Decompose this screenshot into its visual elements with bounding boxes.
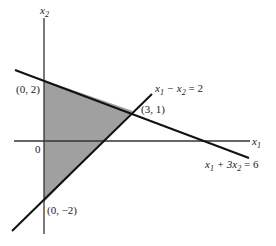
vertex-label-0-2: (0, 2) [16, 83, 40, 96]
line-label-x1-minus-x2: x1 − x2 = 2 [154, 82, 203, 97]
origin-label: 0 [35, 143, 41, 155]
lp-diagram: x2 x1 0 (0, 2) (3, 1) (0, −2) x1 − x2 = … [0, 0, 276, 246]
x1-axis-label: x1 [251, 135, 261, 150]
vertex-label-0-neg2: (0, −2) [47, 204, 77, 217]
x2-axis-label: x2 [39, 4, 49, 19]
line-label-x1-plus-3x2: x1 + 3x2 = 6 [204, 158, 259, 173]
vertex-label-3-1: (3, 1) [141, 103, 165, 116]
